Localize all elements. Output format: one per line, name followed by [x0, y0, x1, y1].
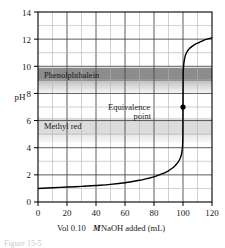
equivalence-point-label-line2: point	[134, 111, 152, 121]
y-tick-label: 4	[27, 143, 32, 153]
x-tick-label: 40	[92, 208, 102, 218]
x-axis-title-pre: Vol 0.10	[57, 223, 86, 233]
y-axis-tick-labels: 14 12 10 8 6 4 2 0	[22, 8, 32, 208]
x-axis-ticks	[38, 202, 212, 206]
x-axis-title-post: NaOH added (mL)	[101, 223, 165, 233]
equivalence-point-marker	[180, 104, 185, 109]
methyl-red-band-label: Methyl red	[44, 121, 82, 131]
y-tick-label: 12	[22, 35, 31, 45]
x-axis-tick-labels: 0 20 40 60 80 100 120	[36, 208, 220, 218]
x-tick-label: 20	[63, 208, 73, 218]
titration-chart-svg: 14 12 10 8 6 4 2 0 0 20 40 60 80 100 120…	[0, 0, 225, 248]
y-tick-label: 14	[22, 8, 32, 18]
y-tick-label: 8	[27, 89, 32, 99]
y-axis-title: pH	[15, 92, 27, 102]
titration-curve-figure: 14 12 10 8 6 4 2 0 0 20 40 60 80 100 120…	[0, 0, 225, 248]
y-tick-label: 6	[27, 116, 32, 126]
y-axis-ticks	[34, 12, 38, 202]
y-tick-label: 0	[27, 197, 32, 207]
x-axis-title: Vol 0.10 M NaOH added (mL)	[57, 223, 165, 233]
x-tick-label: 0	[36, 208, 41, 218]
x-tick-label: 60	[121, 208, 131, 218]
figure-caption: Figure 15-5	[4, 239, 42, 248]
y-tick-label: 2	[27, 170, 32, 180]
phenolphthalein-band-label: Phenolphthalein	[44, 70, 100, 80]
x-tick-label: 100	[176, 208, 190, 218]
x-tick-label: 120	[205, 208, 219, 218]
y-tick-label: 10	[22, 62, 32, 72]
x-tick-label: 80	[150, 208, 160, 218]
x-axis-title-molarity: M	[92, 223, 101, 233]
